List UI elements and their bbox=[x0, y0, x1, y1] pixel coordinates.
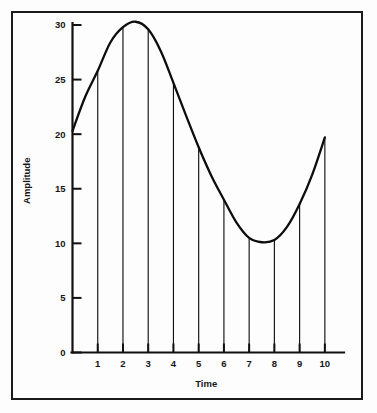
x-axis-tick-label: 7 bbox=[247, 358, 252, 369]
x-axis-tick-label: 9 bbox=[297, 358, 302, 369]
y-axis-tick-label: 25 bbox=[55, 74, 66, 85]
y-axis-tick-label: 30 bbox=[55, 19, 66, 30]
y-axis-tick-label: 5 bbox=[60, 292, 66, 303]
y-axis-tick-label: 15 bbox=[55, 183, 66, 194]
x-axis-tick-label: 2 bbox=[120, 358, 125, 369]
figure-container: 05101520253012345678910 TimeAmplitude bbox=[0, 0, 377, 413]
x-axis-tick-label: 6 bbox=[221, 358, 226, 369]
x-axis-tick-label: 5 bbox=[196, 358, 202, 369]
drop-lines-group bbox=[98, 27, 325, 352]
axis-titles-group: TimeAmplitude bbox=[21, 158, 217, 389]
amplitude-vs-time-chart: 05101520253012345678910 TimeAmplitude bbox=[0, 0, 377, 413]
y-axis-title: Amplitude bbox=[21, 158, 32, 204]
x-axis-tick-label: 8 bbox=[272, 358, 277, 369]
y-axis-tick-label: 0 bbox=[60, 347, 65, 358]
x-axis-tick-label: 3 bbox=[146, 358, 151, 369]
y-axis-tick-label: 10 bbox=[55, 238, 66, 249]
y-axis-tick-label: 20 bbox=[55, 129, 66, 140]
x-axis-tick-label: 10 bbox=[320, 358, 331, 369]
x-axis-tick-label: 1 bbox=[95, 358, 101, 369]
x-axis-tick-label: 4 bbox=[171, 358, 177, 369]
x-axis-title: Time bbox=[195, 378, 217, 389]
axes-group bbox=[72, 23, 345, 353]
